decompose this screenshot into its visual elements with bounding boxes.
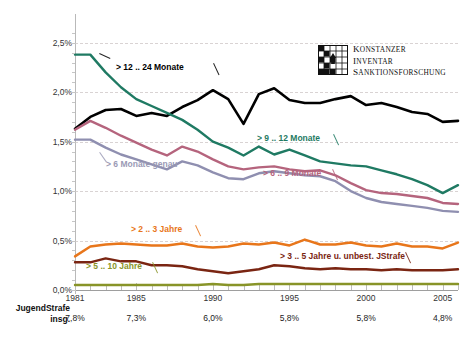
y-minor-tick [72,132,75,133]
logo-line-3: SANKTIONSFORSCHUNG [353,67,446,79]
logo-line-2: INVENTAR [353,56,446,68]
y-minor-tick [71,191,76,192]
y-minor-tick [72,152,75,153]
y-minor-tick [72,231,75,232]
y-minor-tick [72,211,75,212]
series-annotation: > 5 .. 10 Jahre [86,261,142,271]
y-minor-tick [72,201,75,202]
series-annotation: > 12 .. 24 Monate [116,62,184,72]
series-annotation: > 2 .. 3 Jahre [131,224,182,234]
y-minor-tick [72,53,75,54]
y-minor-tick [72,72,75,73]
y-minor-tick [72,260,75,261]
series-line [75,88,458,129]
logo-line-1: KONSTANZER [353,44,446,56]
y-minor-tick [72,63,75,64]
y-minor-tick [72,122,75,123]
series-line [75,284,458,285]
y-minor-tick [71,92,76,93]
y-minor-tick [72,221,75,222]
chart-figure: 0,0%0,5%1,0%1,5%2,0%2,5% 198119851990199… [0,0,472,342]
konstanzer-inventar-grid-mark-icon [318,45,348,75]
y-minor-tick [72,102,75,103]
y-minor-tick [72,270,75,271]
y-minor-tick [72,161,75,162]
y-minor-tick [71,43,76,44]
y-minor-tick [71,142,76,143]
y-minor-tick [72,171,75,172]
y-minor-tick [72,33,75,34]
y-minor-tick [71,290,76,291]
y-minor-tick [72,250,75,251]
y-minor-tick [72,112,75,113]
series-annotation: > 9 .. 12 Monate [257,133,320,143]
series-annotation: > 3 .. 5 Jahre u. unbest. JStrafe [280,251,405,261]
y-minor-tick [72,280,75,281]
y-minor-tick [71,241,76,242]
y-minor-tick [72,82,75,83]
series-annotation: > 6 .. 9 Monate [263,168,321,178]
series-annotation: > 6 Monate genau [106,159,178,169]
y-minor-tick [72,181,75,182]
logo-text: KONSTANZER INVENTAR SANKTIONSFORSCHUNG [353,44,446,79]
organization-logo: KONSTANZER INVENTAR SANKTIONSFORSCHUNG [318,44,438,80]
